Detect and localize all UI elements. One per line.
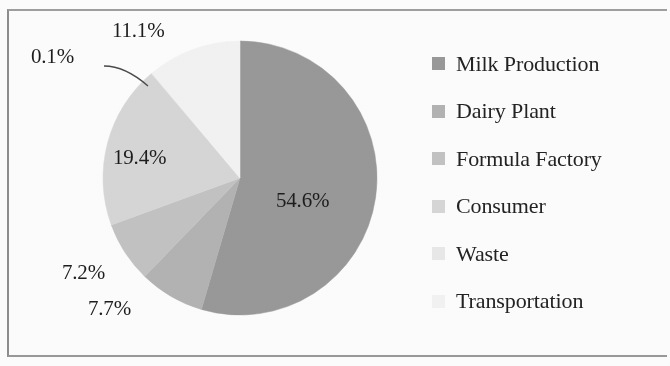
pie-plot-area: 54.6% 19.4% 7.2% 7.7% 0.1% 11.1% xyxy=(0,0,430,366)
slice-label-milk-production: 54.6% xyxy=(276,188,329,213)
slice-label-waste: 0.1% xyxy=(31,44,74,69)
legend-item-waste[interactable]: Waste xyxy=(432,230,670,278)
slice-label-transportation: 11.1% xyxy=(112,18,164,43)
legend-item-label: Dairy Plant xyxy=(456,98,556,124)
legend-item-label: Consumer xyxy=(456,193,546,219)
legend-swatch-icon xyxy=(432,295,445,308)
legend-swatch-icon xyxy=(432,200,445,213)
slice-label-dairy-plant: 7.7% xyxy=(88,296,131,321)
legend-item-milk-production[interactable]: Milk Production xyxy=(432,40,670,88)
legend-item-label: Formula Factory xyxy=(456,146,602,172)
legend-item-transportation[interactable]: Transportation xyxy=(432,278,670,326)
legend-item-dairy-plant[interactable]: Dairy Plant xyxy=(432,88,670,136)
legend-swatch-icon xyxy=(432,57,445,70)
chart-legend: Milk ProductionDairy PlantFormula Factor… xyxy=(432,40,670,325)
legend-swatch-icon xyxy=(432,247,445,260)
legend-item-label: Transportation xyxy=(456,288,583,314)
legend-item-label: Milk Production xyxy=(456,51,599,77)
pie-chart-figure: 54.6% 19.4% 7.2% 7.7% 0.1% 11.1% Milk Pr… xyxy=(0,0,670,366)
legend-item-label: Waste xyxy=(456,241,509,267)
legend-item-formula-factory[interactable]: Formula Factory xyxy=(432,135,670,183)
slice-label-formula-factory: 7.2% xyxy=(62,260,105,285)
slice-label-consumer: 19.4% xyxy=(113,145,166,170)
legend-item-consumer[interactable]: Consumer xyxy=(432,183,670,231)
legend-swatch-icon xyxy=(432,152,445,165)
legend-swatch-icon xyxy=(432,105,445,118)
